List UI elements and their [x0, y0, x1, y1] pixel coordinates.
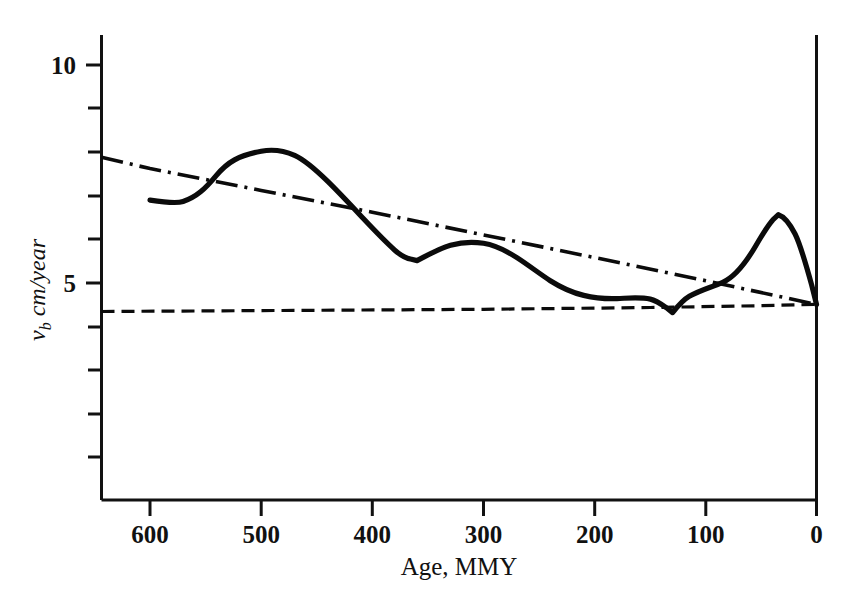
series-observed-spreading-rate: [150, 150, 817, 312]
y-axis-title-rest: cm/year: [24, 238, 50, 322]
x-axis-ticks: [150, 500, 817, 516]
x-ticklabel-400: 400: [354, 521, 392, 548]
line-chart: 10 5 600 500 400 300 200 100 0 Age, MMY: [0, 0, 851, 592]
y-axis-title-subscript: b: [37, 322, 54, 330]
x-ticklabel-500: 500: [242, 521, 280, 548]
y-axis-ticks: [86, 65, 101, 457]
x-ticklabel-100: 100: [687, 521, 725, 548]
y-axis-title: νb cm/year: [24, 238, 54, 341]
x-axis-ticklabels: 600 500 400 300 200 100 0: [131, 521, 823, 548]
series-baseline-trend-line: [102, 304, 817, 311]
axes-frame: [102, 35, 818, 500]
svg-text:νb cm/year: νb cm/year: [24, 238, 54, 341]
y-axis-title-symbol: ν: [24, 330, 50, 341]
y-ticklabel-10: 10: [51, 52, 76, 79]
x-axis-title: Age, MMY: [401, 553, 518, 580]
x-ticklabel-300: 300: [465, 521, 503, 548]
x-ticklabel-0: 0: [810, 521, 823, 548]
series-declining-trend-line: [102, 157, 817, 304]
x-ticklabel-200: 200: [576, 521, 614, 548]
x-ticklabel-600: 600: [131, 521, 169, 548]
figure-container: 10 5 600 500 400 300 200 100 0 Age, MMY: [0, 0, 851, 592]
y-ticklabel-5: 5: [64, 270, 77, 297]
